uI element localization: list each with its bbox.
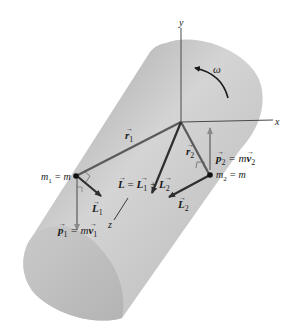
y-axis-label: y <box>178 17 184 28</box>
svg-text:→: → <box>90 220 97 228</box>
m2-label: m2 = m <box>216 169 246 183</box>
rotating-body-diagram: y x z ω r1 → r2 → L = L1 + L2 m1 = m <box>0 0 297 333</box>
svg-text:→: → <box>165 174 172 182</box>
svg-text:→: → <box>119 174 126 182</box>
mass-2-dot <box>207 172 213 178</box>
r2-arrow-accent: → <box>187 141 194 149</box>
svg-text:→: → <box>59 220 66 228</box>
omega-label: ω <box>213 63 221 75</box>
x-axis-label: x <box>274 116 280 127</box>
r1-arrow-accent: → <box>126 125 133 133</box>
svg-text:→: → <box>217 148 224 156</box>
m1-label: m1 = m <box>41 171 71 185</box>
svg-text:→: → <box>179 194 186 202</box>
svg-text:→: → <box>247 148 254 156</box>
svg-text:→: → <box>141 174 148 182</box>
mass-1-dot <box>73 173 79 179</box>
svg-text:→: → <box>93 198 100 206</box>
z-axis-label: z <box>107 219 112 230</box>
